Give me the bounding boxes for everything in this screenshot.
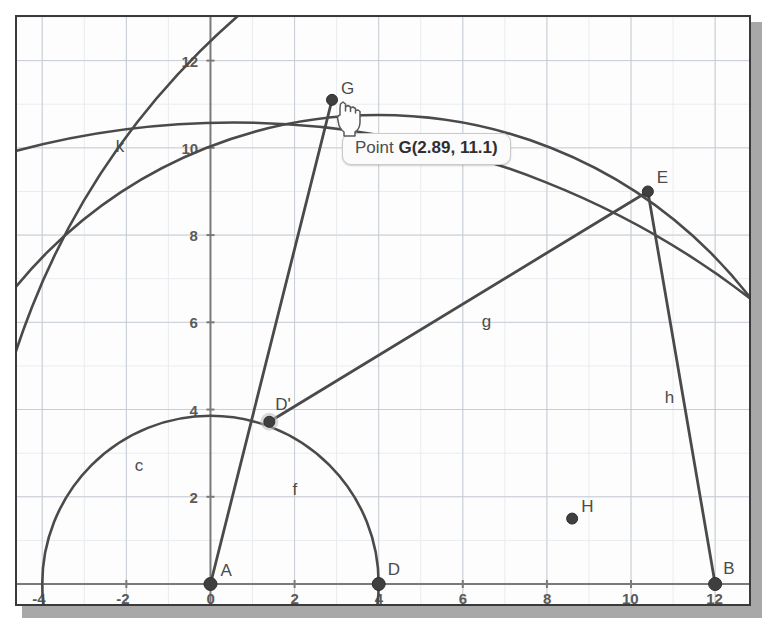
- curve-label-c: c: [135, 456, 144, 475]
- point-label-H: H: [581, 497, 593, 516]
- point-B[interactable]: [709, 578, 722, 591]
- x-axis-tick-label: 10: [622, 590, 639, 606]
- point-label-E: E: [657, 168, 668, 187]
- y-axis-tick-label: 8: [189, 227, 197, 244]
- y-axis-tick-label: 2: [189, 489, 197, 506]
- point-label-Dp: D': [275, 395, 291, 414]
- circle-arc_d[interactable]: [17, 115, 751, 606]
- point-A[interactable]: [204, 578, 217, 591]
- x-axis-tick-label: -2: [116, 590, 129, 606]
- geometry-plot[interactable]: -4-202468101224681012ckfghADBEGHD': [17, 17, 751, 606]
- x-axis-tick-label: 6: [459, 590, 467, 606]
- segment-label-g: g: [482, 312, 491, 331]
- point-G[interactable]: [327, 94, 338, 105]
- segment-label-h: h: [665, 388, 674, 407]
- graphics-canvas[interactable]: -4-202468101224681012ckfghADBEGHD': [17, 17, 749, 604]
- point-label-B: B: [723, 559, 734, 578]
- segment-label-f: f: [292, 480, 297, 499]
- y-axis-tick-label: 6: [189, 314, 197, 331]
- segment-g[interactable]: [269, 191, 648, 421]
- segment-f[interactable]: [210, 100, 332, 584]
- screenshot-root: -4-202468101224681012ckfghADBEGHD' Point…: [0, 0, 774, 636]
- graphics-view-panel[interactable]: -4-202468101224681012ckfghADBEGHD' Point…: [15, 15, 751, 606]
- x-axis-tick-label: 8: [543, 590, 551, 606]
- tooltip-prefix: Point: [355, 138, 398, 157]
- point-H[interactable]: [567, 513, 578, 524]
- point-label-G: G: [341, 79, 354, 98]
- point-tooltip: Point G(2.89, 11.1): [342, 133, 511, 165]
- x-axis-tick-label: 12: [706, 590, 723, 606]
- point-label-A: A: [220, 561, 232, 580]
- x-axis-tick-label: 2: [291, 590, 299, 606]
- curve-label-k: k: [116, 137, 125, 156]
- point-Dp[interactable]: [264, 416, 275, 427]
- tooltip-value: G(2.89, 11.1): [398, 138, 497, 157]
- point-D[interactable]: [372, 578, 385, 591]
- point-label-D: D: [388, 560, 400, 579]
- circle-arc_b[interactable]: [17, 17, 751, 606]
- x-axis-tick-label: 0: [206, 590, 214, 606]
- point-E[interactable]: [642, 186, 653, 197]
